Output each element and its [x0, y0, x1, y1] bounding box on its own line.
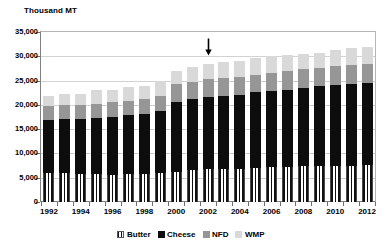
x-tick-label: 2012: [352, 207, 382, 216]
bar-group[interactable]: [203, 32, 214, 202]
x-tick-label: 1996: [98, 207, 128, 216]
bar-segment-cheese: [218, 96, 229, 169]
x-tick-label: 1992: [34, 207, 64, 216]
x-tick-mark: [327, 202, 328, 206]
bar-group[interactable]: [59, 32, 70, 202]
bar-group[interactable]: [43, 32, 54, 202]
bar-segment-wmp: [187, 67, 198, 82]
x-tick-mark: [232, 202, 233, 206]
bar-segment-butter: [75, 174, 86, 202]
x-tick-mark: [121, 202, 122, 206]
bar-group[interactable]: [91, 32, 102, 202]
bar-segment-butter: [91, 174, 102, 202]
bar-segment-wmp: [171, 71, 182, 84]
bar-segment-wmp: [362, 47, 373, 64]
butter-swatch: [117, 231, 124, 238]
x-tick-mark: [152, 202, 153, 206]
bar-segment-butter: [107, 175, 118, 202]
bar-segment-butter: [187, 170, 198, 202]
bar-segment-nfd: [59, 105, 70, 119]
bar-segment-nfd: [250, 75, 261, 93]
bar-segment-wmp: [155, 81, 166, 96]
bar-group[interactable]: [346, 32, 357, 202]
bar-segment-wmp: [91, 90, 102, 104]
bar-segment-butter: [250, 168, 261, 202]
bar-segment-cheese: [234, 95, 245, 169]
bar-segment-butter: [171, 172, 182, 202]
bar-group[interactable]: [187, 32, 198, 202]
bar-segment-nfd: [75, 105, 86, 119]
y-tick-label: 25,000: [15, 77, 38, 85]
bar-segment-butter: [155, 173, 166, 202]
bar-segment-cheese: [155, 111, 166, 173]
y-tick-label: 20,000: [15, 101, 38, 109]
bar-segment-butter: [362, 165, 373, 202]
bar-group[interactable]: [314, 32, 325, 202]
y-tick-label: 30,000: [15, 52, 38, 60]
bar-group[interactable]: [123, 32, 134, 202]
wmp-swatch: [235, 231, 242, 238]
bar-group[interactable]: [266, 32, 277, 202]
bar-segment-nfd: [91, 104, 102, 119]
bar-segment-butter: [266, 167, 277, 202]
x-tick-mark: [264, 202, 265, 206]
cheese-swatch: [158, 231, 165, 238]
x-tick-mark: [200, 202, 201, 206]
bar-segment-wmp: [346, 48, 357, 65]
bar-group[interactable]: [330, 32, 341, 202]
legend-label: Butter: [127, 230, 151, 239]
bar-segment-nfd: [362, 64, 373, 83]
bar-segment-nfd: [171, 84, 182, 102]
x-tick-label: 2004: [225, 207, 255, 216]
bars-layer: [41, 32, 375, 202]
legend-item-butter[interactable]: Butter: [117, 230, 150, 239]
bar-group[interactable]: [107, 32, 118, 202]
bar-group[interactable]: [139, 32, 150, 202]
legend-item-nfd[interactable]: NFD: [203, 230, 229, 239]
x-tick-mark: [280, 202, 281, 206]
legend-label: Cheese: [167, 230, 195, 239]
bar-group[interactable]: [362, 32, 373, 202]
bar-segment-cheese: [75, 119, 86, 174]
bar-segment-nfd: [266, 73, 277, 91]
bar-group[interactable]: [171, 32, 182, 202]
bar-group[interactable]: [282, 32, 293, 202]
legend-label: NFD: [212, 230, 228, 239]
bar-group[interactable]: [234, 32, 245, 202]
bar-segment-nfd: [43, 106, 54, 121]
x-tick-mark: [248, 202, 249, 206]
bar-segment-nfd: [123, 101, 134, 116]
bar-segment-cheese: [282, 90, 293, 167]
bar-group[interactable]: [75, 32, 86, 202]
x-tick-label: 2006: [257, 207, 287, 216]
y-tick-label: 0: [34, 198, 38, 206]
bar-segment-butter: [330, 166, 341, 202]
bar-group[interactable]: [218, 32, 229, 202]
bar-segment-wmp: [107, 90, 118, 101]
bar-segment-wmp: [139, 86, 150, 99]
bar-group[interactable]: [298, 32, 309, 202]
bar-segment-cheese: [362, 83, 373, 166]
bar-segment-cheese: [43, 120, 54, 172]
bar-segment-cheese: [346, 84, 357, 166]
bar-segment-butter: [203, 169, 214, 202]
x-axis-labels: 1992199419961998200020022004200620082010…: [41, 207, 375, 219]
y-tick-label: 35,000: [15, 28, 38, 36]
legend-item-cheese[interactable]: Cheese: [158, 230, 196, 239]
bar-group[interactable]: [155, 32, 166, 202]
x-tick-mark: [168, 202, 169, 206]
bar-group[interactable]: [250, 32, 261, 202]
bar-segment-nfd: [330, 66, 341, 86]
x-tick-mark: [343, 202, 344, 206]
x-tick-label: 2000: [161, 207, 191, 216]
bar-segment-wmp: [59, 94, 70, 105]
legend-label: WMP: [245, 230, 265, 239]
legend-item-wmp[interactable]: WMP: [235, 230, 264, 239]
y-tick-label: 15,000: [15, 125, 38, 133]
x-tick-mark: [136, 202, 137, 206]
x-tick-mark: [105, 202, 106, 206]
bar-segment-butter: [282, 167, 293, 202]
bar-segment-wmp: [234, 61, 245, 77]
nfd-swatch: [203, 231, 210, 238]
x-tick-mark: [184, 202, 185, 206]
